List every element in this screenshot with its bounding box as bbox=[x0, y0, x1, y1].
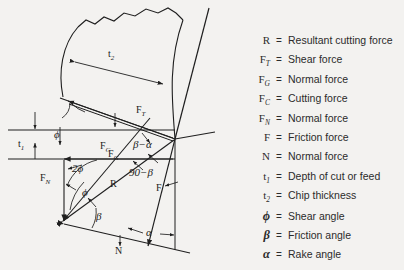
label-F: F bbox=[156, 182, 162, 193]
legend-row: FT=Shear force bbox=[228, 53, 404, 72]
label-t1: t1 bbox=[18, 138, 24, 152]
legend-equals: = bbox=[274, 151, 284, 162]
legend-description: Normal force bbox=[284, 112, 348, 124]
legend-symbol: t1 bbox=[228, 170, 274, 185]
legend-equals: = bbox=[274, 132, 284, 143]
legend-description: Friction force bbox=[284, 131, 349, 143]
legend-row: R=Resultant cutting force bbox=[228, 34, 404, 53]
legend-equals: = bbox=[274, 249, 284, 260]
legend-row: FC=Cutting force bbox=[228, 92, 404, 111]
legend-description: Normal force bbox=[284, 150, 348, 162]
chip-outer-edge bbox=[172, 20, 183, 139]
legend-symbol: ϕ bbox=[228, 209, 274, 224]
label-beta: β bbox=[96, 210, 101, 222]
legend-description: Chip thickness bbox=[284, 189, 356, 201]
label-two-phi: 2ϕ bbox=[72, 162, 83, 174]
legend-equals: = bbox=[274, 190, 284, 201]
label-phi-polygon: ϕ bbox=[82, 186, 88, 198]
label-t2: t2 bbox=[108, 48, 114, 62]
legend-symbol: FC bbox=[228, 92, 274, 107]
legend-description: Cutting force bbox=[284, 92, 348, 104]
legend-equals: = bbox=[274, 74, 284, 85]
alpha-pointer-right bbox=[160, 234, 174, 235]
label-Fg: FG bbox=[108, 148, 119, 162]
legend-equals: = bbox=[274, 230, 284, 241]
legend-description: Resultant cutting force bbox=[284, 34, 392, 46]
label-alpha: α bbox=[146, 226, 152, 238]
phi-pointer-polygon bbox=[66, 184, 76, 190]
label-Ft: FT bbox=[136, 104, 145, 118]
label-N: N bbox=[115, 245, 122, 256]
Ft-vector-second-line bbox=[69, 104, 173, 141]
legend-description: Rake angle bbox=[284, 248, 341, 260]
legend-row: α=Rake angle bbox=[228, 247, 404, 266]
legend-symbol: R bbox=[228, 34, 274, 46]
legend-row: ϕ=Shear angle bbox=[228, 209, 404, 228]
legend-symbol: FG bbox=[228, 73, 274, 88]
F-pointer bbox=[165, 182, 178, 186]
legend-equals: = bbox=[274, 54, 284, 65]
label-Fn: FN bbox=[40, 172, 50, 186]
legend-description: Normal force bbox=[284, 73, 348, 85]
legend-symbol: β bbox=[228, 228, 274, 243]
legend-symbol: t2 bbox=[228, 189, 274, 204]
figure-root: t1 t2 ϕ FC FT FG FN R N F 2ϕ ϕ β β−α 90−… bbox=[0, 0, 404, 270]
legend-description: Shear angle bbox=[284, 210, 345, 222]
legend-equals: = bbox=[274, 93, 284, 104]
legend-equals: = bbox=[274, 35, 284, 46]
chip-free-end bbox=[78, 8, 183, 27]
legend-description: Shear force bbox=[284, 53, 342, 65]
legend-row: F=Friction force bbox=[228, 131, 404, 150]
legend-symbol: FN bbox=[228, 112, 274, 127]
phi-arc-small bbox=[62, 103, 70, 118]
legend-equals: = bbox=[274, 211, 284, 222]
legend-row: FG=Normal force bbox=[228, 73, 404, 92]
alpha-pointer-left bbox=[128, 228, 143, 233]
label-beta-minus-alpha: β−α bbox=[133, 138, 152, 150]
legend-symbol: FT bbox=[228, 53, 274, 68]
legend-row: t2=Chip thickness bbox=[228, 189, 404, 208]
legend-description: Friction angle bbox=[284, 229, 351, 241]
legend-symbol: F bbox=[228, 131, 274, 143]
label-ninety-minus-beta: 90−β bbox=[129, 166, 153, 178]
legend-row: FN=Normal force bbox=[228, 112, 404, 131]
legend-symbol: α bbox=[228, 247, 274, 262]
legend: R=Resultant cutting forceFT=Shear forceF… bbox=[228, 34, 404, 267]
label-R: R bbox=[110, 178, 117, 189]
legend-equals: = bbox=[274, 171, 284, 182]
label-phi-surface: ϕ bbox=[54, 128, 60, 140]
N-vector bbox=[64, 224, 190, 253]
Ft-vector bbox=[68, 101, 173, 138]
legend-description: Depth of cut or feed bbox=[284, 170, 380, 182]
workpiece-right-edge bbox=[175, 132, 215, 139]
legend-equals: = bbox=[274, 113, 284, 124]
legend-row: N=Normal force bbox=[228, 150, 404, 169]
legend-row: β=Friction angle bbox=[228, 228, 404, 247]
t2-dimension-line bbox=[75, 62, 163, 84]
legend-symbol: N bbox=[228, 150, 274, 162]
legend-row: t1=Depth of cut or feed bbox=[228, 170, 404, 189]
